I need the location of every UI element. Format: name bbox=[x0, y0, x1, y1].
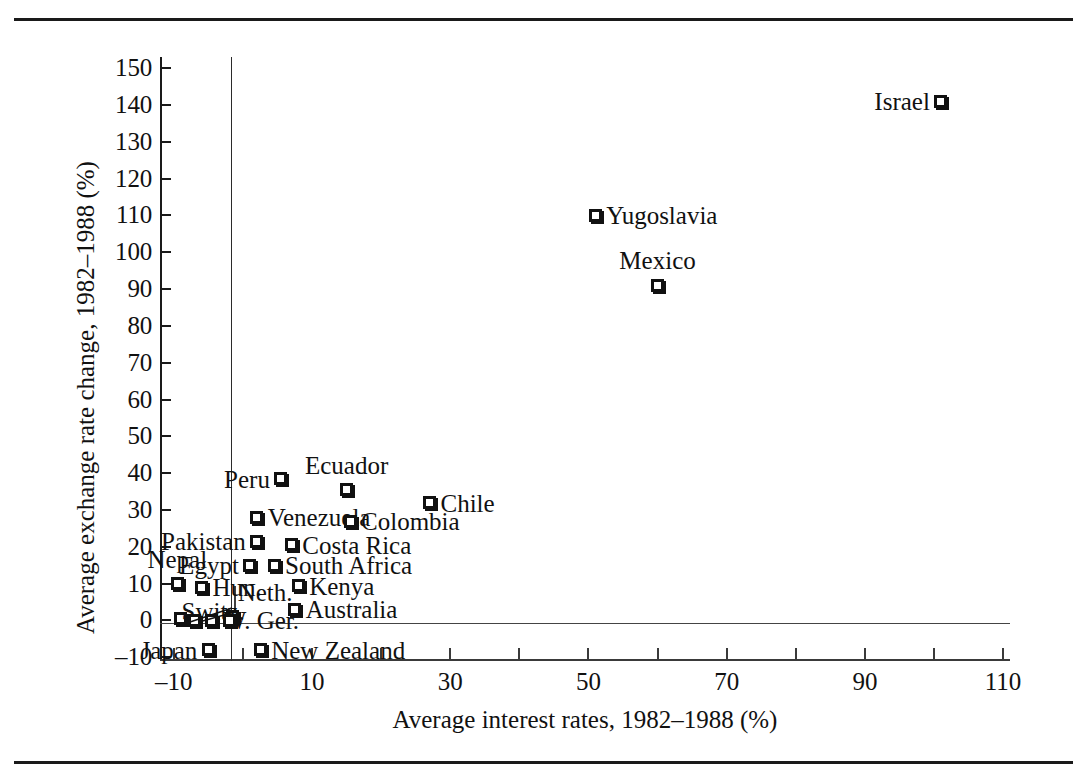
x-tick-label: –10 bbox=[134, 668, 214, 695]
y-tick bbox=[160, 362, 171, 364]
data-point-south-africa[interactable] bbox=[268, 559, 281, 572]
data-point-israel[interactable] bbox=[934, 95, 947, 108]
data-point-hungary[interactable] bbox=[195, 581, 208, 594]
data-point-egypt[interactable] bbox=[243, 559, 256, 572]
data-point-mexico[interactable] bbox=[651, 279, 664, 292]
y-tick bbox=[160, 509, 171, 511]
data-point-colombia[interactable] bbox=[344, 515, 357, 528]
y-tick-label: 20 bbox=[92, 534, 152, 559]
data-point-japan[interactable] bbox=[202, 643, 215, 656]
data-point-unnamed-b[interactable] bbox=[223, 614, 236, 627]
x-tick bbox=[587, 648, 589, 660]
x-tick-label: 70 bbox=[687, 668, 767, 695]
point-label-yugoslavia: Yugoslavia bbox=[606, 203, 717, 228]
point-label-mexico: Mexico bbox=[619, 248, 695, 273]
y-tick-label: 80 bbox=[92, 313, 152, 338]
point-label-ecuador: Ecuador bbox=[305, 453, 388, 478]
scatter-plot: –100102030405060708090100110120130140150… bbox=[0, 0, 1087, 784]
y-tick-label: 140 bbox=[92, 92, 152, 117]
y-tick-label: 120 bbox=[92, 166, 152, 191]
y-tick-label: 10 bbox=[92, 571, 152, 596]
x-tick bbox=[864, 648, 866, 660]
y-tick-label: 90 bbox=[92, 276, 152, 301]
point-label-kenya: Kenya bbox=[309, 573, 374, 598]
x-tick-label: 10 bbox=[272, 668, 352, 695]
x-tick-label: 90 bbox=[825, 668, 905, 695]
x-tick-label: 50 bbox=[548, 668, 628, 695]
y-tick-label: 0 bbox=[92, 607, 152, 632]
y-tick-label: 150 bbox=[92, 55, 152, 80]
point-label-new-zealand: New Zealand bbox=[271, 637, 405, 662]
x-tick-label: 110 bbox=[963, 668, 1043, 695]
data-point-nepal[interactable] bbox=[171, 577, 184, 590]
x-tick-label: 30 bbox=[410, 668, 490, 695]
y-tick-label: 110 bbox=[92, 202, 152, 227]
x-minor-tick bbox=[242, 648, 244, 660]
y-tick bbox=[160, 67, 171, 69]
data-point-yugoslavia[interactable] bbox=[589, 209, 602, 222]
point-label-israel: Israel bbox=[874, 89, 930, 114]
data-point-venezuela[interactable] bbox=[250, 511, 263, 524]
y-tick bbox=[160, 104, 171, 106]
data-point-new-zealand[interactable] bbox=[254, 643, 267, 656]
figure-container: –100102030405060708090100110120130140150… bbox=[0, 0, 1087, 784]
data-point-pakistan[interactable] bbox=[250, 535, 263, 548]
y-axis-title: Average exchange rate change, 1982–1988 … bbox=[72, 161, 100, 634]
y-tick bbox=[160, 288, 171, 290]
x-tick bbox=[449, 648, 451, 660]
x-minor-tick bbox=[657, 648, 659, 660]
y-tick-label: 70 bbox=[92, 350, 152, 375]
y-tick bbox=[160, 178, 171, 180]
x-tick bbox=[726, 648, 728, 660]
y-tick-label: 60 bbox=[92, 387, 152, 412]
x-minor-tick bbox=[795, 648, 797, 660]
switzerland-leader bbox=[232, 608, 233, 609]
point-label-nepal: Nepal bbox=[147, 547, 207, 572]
data-point-kenya[interactable] bbox=[292, 579, 305, 592]
x-tick bbox=[1002, 648, 1004, 660]
y-tick bbox=[160, 251, 171, 253]
point-label-peru: Peru bbox=[224, 466, 270, 491]
data-point-costa-rica[interactable] bbox=[285, 538, 298, 551]
y-tick-label: 100 bbox=[92, 239, 152, 264]
y-tick-label: 130 bbox=[92, 129, 152, 154]
y-tick bbox=[160, 325, 171, 327]
point-label-colombia: Colombia bbox=[361, 509, 460, 534]
y-tick bbox=[160, 214, 171, 216]
y-tick-label: 50 bbox=[92, 423, 152, 448]
y-tick bbox=[160, 141, 171, 143]
x-minor-tick bbox=[518, 648, 520, 660]
point-label-australia: Australia bbox=[306, 597, 398, 622]
y-tick bbox=[160, 472, 171, 474]
netherlands-leader bbox=[235, 586, 236, 587]
y-tick bbox=[160, 619, 171, 621]
y-tick bbox=[160, 435, 171, 437]
x-axis-title: Average interest rates, 1982–1988 (%) bbox=[160, 706, 1010, 734]
data-point-peru[interactable] bbox=[274, 472, 287, 485]
y-tick bbox=[160, 399, 171, 401]
x-minor-tick bbox=[933, 648, 935, 660]
point-label-japan: Japan bbox=[140, 637, 197, 662]
data-point-ecuador[interactable] bbox=[340, 483, 353, 496]
point-label-netherlands: Neth. bbox=[238, 579, 293, 604]
y-tick-label: 40 bbox=[92, 460, 152, 485]
y-tick-label: 30 bbox=[92, 497, 152, 522]
y-tick bbox=[160, 583, 171, 585]
